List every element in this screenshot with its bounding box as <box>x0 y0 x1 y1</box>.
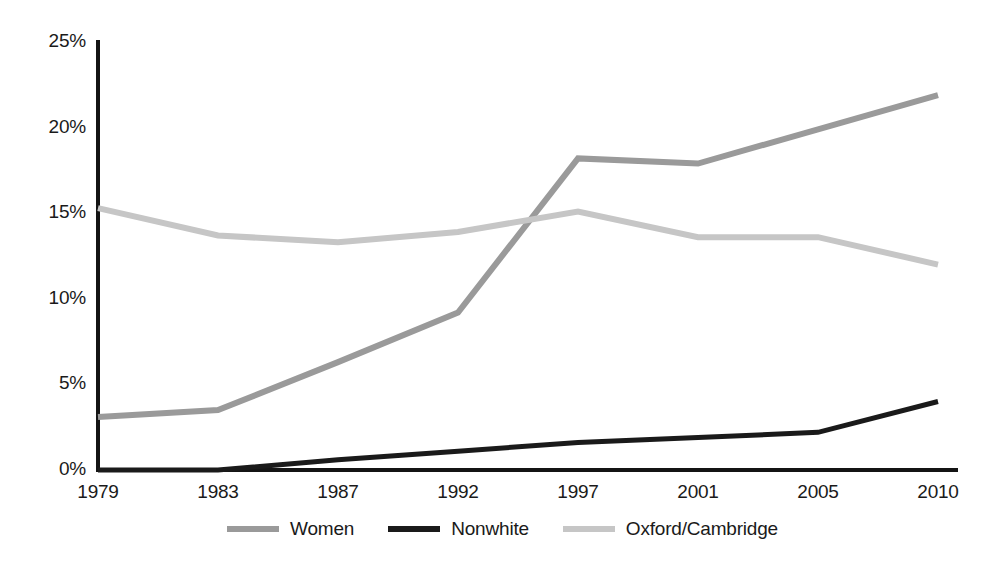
x-tick-label: 1992 <box>398 481 518 503</box>
legend-swatch-icon <box>388 526 440 532</box>
x-tick-label: 1997 <box>518 481 638 503</box>
legend-swatch-icon <box>563 526 615 532</box>
y-tick-label: 0% <box>59 458 86 480</box>
series-line-nonwhite <box>98 402 938 470</box>
legend-item-oxford-cambridge[interactable]: Oxford/Cambridge <box>563 518 778 540</box>
x-tick-label: 1983 <box>158 481 278 503</box>
chart-legend: WomenNonwhiteOxford/Cambridge <box>0 518 1005 540</box>
x-tick-label: 1987 <box>278 481 398 503</box>
legend-label: Women <box>290 518 354 540</box>
x-tick-label: 2005 <box>758 481 878 503</box>
legend-label: Oxford/Cambridge <box>626 518 778 540</box>
legend-swatch-icon <box>227 526 279 532</box>
y-tick-label: 5% <box>59 372 86 394</box>
x-tick-label: 2001 <box>638 481 758 503</box>
y-tick-label: 25% <box>49 30 86 52</box>
y-tick-label: 20% <box>49 116 86 138</box>
x-tick-label: 2010 <box>878 481 998 503</box>
y-tick-label: 10% <box>49 287 86 309</box>
legend-item-women[interactable]: Women <box>227 518 354 540</box>
series-lines <box>98 95 938 470</box>
y-tick-label: 15% <box>49 201 86 223</box>
legend-label: Nonwhite <box>451 518 529 540</box>
line-chart: 0%5%10%15%20%25% 19791983198719921997200… <box>0 0 1005 578</box>
series-line-women <box>98 95 938 417</box>
legend-item-nonwhite[interactable]: Nonwhite <box>388 518 529 540</box>
x-tick-label: 1979 <box>38 481 158 503</box>
